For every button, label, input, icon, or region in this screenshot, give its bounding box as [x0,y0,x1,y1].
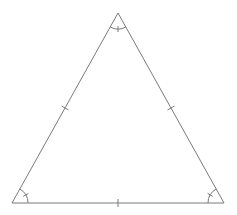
equilateral-triangle [12,13,224,203]
side-tick-left [62,106,69,110]
triangle-outline [12,13,224,203]
angle-arc-marks [20,26,216,203]
side-tick-right [168,106,175,110]
side-tick-marks [62,106,175,207]
triangle-diagram [0,0,237,215]
